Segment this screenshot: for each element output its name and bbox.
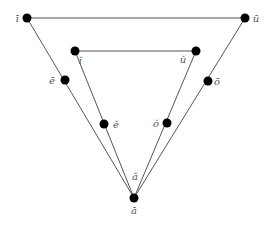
label-o_long: ō — [214, 76, 220, 87]
node-a_long — [130, 194, 139, 203]
node-o_short — [163, 119, 172, 128]
label-i_short: ĭ — [78, 55, 83, 66]
labels: īūĭŭēōĕŏăā — [15, 13, 259, 216]
label-o_short: ŏ — [153, 118, 159, 129]
edge-u_long-a_long — [134, 18, 245, 198]
node-u_long — [241, 14, 250, 23]
label-a_long: ā — [131, 205, 137, 216]
label-e_long: ē — [49, 75, 55, 86]
node-e_short — [100, 120, 109, 129]
vowel-triangle-diagram: īūĭŭēōĕŏăā — [0, 0, 274, 226]
node-e_long — [61, 76, 70, 85]
label-e_short: ĕ — [113, 119, 119, 130]
node-i_long — [23, 14, 32, 23]
node-u_short — [192, 47, 201, 56]
node-o_long — [204, 77, 213, 86]
edge-i_long-a_long — [27, 18, 134, 198]
label-i_long: ī — [15, 13, 19, 24]
label-u_short: ŭ — [180, 54, 186, 65]
label-a_short: ă — [132, 171, 138, 182]
label-u_long: ū — [253, 13, 259, 24]
